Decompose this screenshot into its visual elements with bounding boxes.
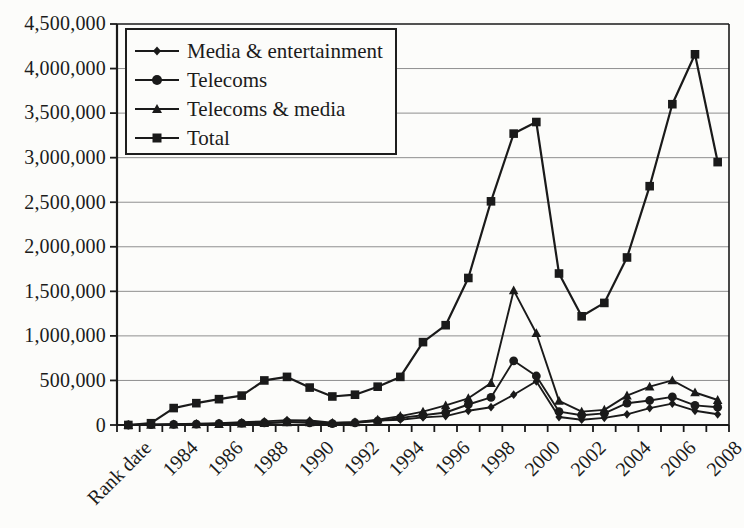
y-axis-label: 3,000,000 bbox=[0, 145, 106, 169]
y-axis-label: 2,000,000 bbox=[0, 234, 106, 258]
legend-item: Total bbox=[134, 123, 395, 152]
y-axis-label: 1,500,000 bbox=[0, 279, 106, 303]
y-axis-label: 3,500,000 bbox=[0, 100, 106, 124]
chart-figure: 4,500,000 4,000,000 3,500,000 3,000,000 … bbox=[0, 0, 744, 528]
legend-item: Telecoms bbox=[134, 65, 395, 94]
diamond-marker-icon bbox=[134, 43, 180, 59]
legend-label: Telecoms & media bbox=[187, 98, 345, 120]
legend-item: Telecoms & media bbox=[134, 94, 395, 123]
y-axis-label: 1,000,000 bbox=[0, 323, 106, 347]
legend-label: Total bbox=[187, 127, 230, 149]
y-axis-label: 0 bbox=[0, 413, 106, 437]
legend: Media & entertainment Telecoms Telecoms … bbox=[125, 28, 397, 155]
legend-item: Media & entertainment bbox=[134, 36, 395, 65]
legend-label: Telecoms bbox=[187, 69, 267, 91]
legend-label: Media & entertainment bbox=[187, 40, 383, 62]
y-axis-label: 2,500,000 bbox=[0, 190, 106, 214]
square-marker-icon bbox=[134, 130, 180, 146]
circle-marker-icon bbox=[134, 72, 180, 88]
y-axis-label: 500,000 bbox=[0, 368, 106, 392]
triangle-marker-icon bbox=[134, 101, 180, 117]
y-axis-label: 4,000,000 bbox=[0, 56, 106, 80]
y-axis-label: 4,500,000 bbox=[0, 11, 106, 35]
